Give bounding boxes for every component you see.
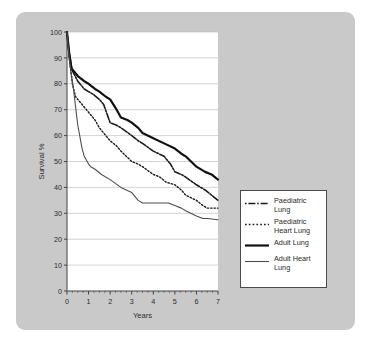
x-axis-tick-label: 4: [151, 297, 155, 306]
y-axis-title: Survival %: [37, 143, 46, 179]
legend-label-adult-heart-lung: Adult Heart Lung: [274, 255, 311, 272]
survival-chart: 010203040506070809010001234567YearsSurvi…: [16, 12, 355, 330]
y-axis-tick-label: 80: [54, 79, 62, 88]
x-axis-tick-label: 2: [108, 297, 112, 306]
legend-swatch-solid-thin-icon: [245, 256, 269, 267]
legend-swatch-dash-dot-icon: [245, 198, 269, 209]
x-axis-tick-label: 1: [87, 297, 91, 306]
y-axis-tick-label: 40: [54, 183, 62, 192]
y-axis-tick-label: 0: [58, 287, 62, 296]
y-axis-tick-label: 90: [54, 54, 62, 63]
x-axis-title: Years: [133, 311, 152, 320]
figure-panel: 010203040506070809010001234567YearsSurvi…: [16, 12, 355, 330]
y-axis-tick-label: 100: [50, 28, 62, 37]
legend-label-paediatric-lung: Paediatric Lung: [274, 197, 306, 214]
legend-item-paediatric-lung: Paediatric Lung: [241, 197, 326, 214]
legend-item-paediatric-heart-lung: Paediatric Heart Lung: [241, 218, 326, 235]
x-axis-tick-label: 5: [173, 297, 177, 306]
y-axis-tick-label: 50: [54, 157, 62, 166]
x-axis-tick-label: 6: [194, 297, 198, 306]
y-axis-tick-label: 10: [54, 261, 62, 270]
x-axis-tick-label: 7: [216, 297, 220, 306]
y-axis-tick-label: 60: [54, 131, 62, 140]
legend-item-adult-lung: Adult Lung: [241, 239, 326, 251]
x-axis-tick-label: 0: [65, 297, 69, 306]
y-axis-tick-label: 20: [54, 235, 62, 244]
chart-legend: Paediatric Lung Paediatric Heart Lung Ad…: [240, 190, 327, 288]
y-axis-tick-label: 70: [54, 105, 62, 114]
y-axis-tick-label: 30: [54, 209, 62, 218]
legend-item-adult-heart-lung: Adult Heart Lung: [241, 255, 326, 272]
legend-label-paediatric-heart-lung: Paediatric Heart Lung: [274, 218, 310, 235]
legend-swatch-solid-thick-icon: [245, 240, 269, 251]
legend-swatch-dotted-icon: [245, 219, 269, 230]
x-axis-tick-label: 3: [130, 297, 134, 306]
legend-label-adult-lung: Adult Lung: [274, 239, 309, 248]
